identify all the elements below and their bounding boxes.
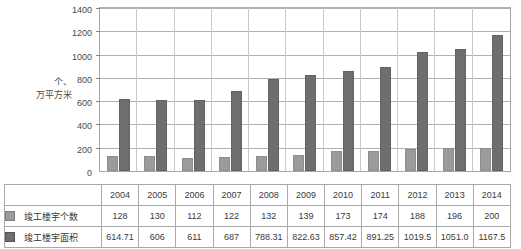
bar-completed-area — [343, 71, 354, 171]
legend-label: 竣工楼宇面积 — [24, 231, 78, 244]
y-axis-tick-label: 600 — [52, 99, 92, 108]
table-header-row: 2004200520062007200820092010201120122013… — [5, 185, 511, 206]
table-year-header: 2007 — [213, 185, 250, 206]
bar-completed-area — [417, 52, 428, 171]
bar-completed-area — [156, 100, 167, 171]
table-value-cell: 196 — [436, 206, 473, 227]
table-value-cell: 139 — [287, 206, 324, 227]
bar-completed-count — [182, 158, 193, 171]
data-table: 2004200520062007200820092010201120122013… — [4, 184, 511, 248]
y-axis-tick-label: 800 — [52, 75, 92, 84]
bar-completed-area — [231, 91, 242, 171]
table-value-cell: 614.71 — [102, 227, 139, 248]
bar-completed-area — [268, 79, 279, 171]
table-series-label-cell: 竣工楼宇个数 — [5, 206, 102, 227]
bar-group — [435, 8, 472, 171]
table-value-cell: 1051.0 — [436, 227, 473, 248]
bar-group — [473, 8, 510, 171]
legend-entry: 竣工楼宇个数 — [5, 210, 101, 223]
table-value-cell: 606 — [139, 227, 176, 248]
table-year-header: 2010 — [325, 185, 362, 206]
table-year-header: 2004 — [102, 185, 139, 206]
table-year-header: 2013 — [436, 185, 473, 206]
bar-completed-count — [405, 149, 416, 171]
table-series-label-cell: 竣工楼宇面积 — [5, 227, 102, 248]
bar-group — [324, 8, 361, 171]
bar-completed-count — [256, 156, 267, 171]
legend-entry: 竣工楼宇面积 — [5, 231, 101, 244]
table-value-cell: 112 — [176, 206, 213, 227]
bar-group — [137, 8, 174, 171]
bar-chart-with-data-table: 个、 万平方米 1400120010008006004002000 200420… — [0, 0, 521, 249]
bar-completed-count — [443, 148, 454, 171]
bar-completed-area — [119, 99, 130, 171]
table-year-header: 2012 — [399, 185, 436, 206]
data-table-container: 2004200520062007200820092010201120122013… — [4, 184, 512, 248]
chart-plot-region: 个、 万平方米 1400120010008006004002000 — [0, 0, 521, 184]
table-corner-cell — [5, 185, 102, 206]
y-axis-tick-label: 200 — [52, 145, 92, 154]
bar-group — [361, 8, 398, 171]
table-value-cell: 128 — [102, 206, 139, 227]
table-year-header: 2014 — [473, 185, 510, 206]
bar-completed-count — [144, 156, 155, 171]
bar-completed-count — [331, 151, 342, 171]
y-axis-tick-labels: 1400120010008006004002000 — [52, 2, 92, 172]
table-year-header: 2008 — [250, 185, 287, 206]
bar-completed-count — [368, 151, 379, 171]
bar-group — [175, 8, 212, 171]
table-value-cell: 891.25 — [362, 227, 399, 248]
table-value-cell: 130 — [139, 206, 176, 227]
table-year-header: 2006 — [176, 185, 213, 206]
bar-groups — [100, 8, 510, 171]
table-year-header: 2005 — [139, 185, 176, 206]
table-value-cell: 200 — [473, 206, 510, 227]
table-value-cell: 122 — [213, 206, 250, 227]
bar-completed-count — [480, 148, 491, 171]
bar-group — [249, 8, 286, 171]
table-value-cell: 857.42 — [325, 227, 362, 248]
bar-completed-area — [305, 75, 316, 171]
bar-group — [100, 8, 137, 171]
bar-group — [212, 8, 249, 171]
table-value-cell: 611 — [176, 227, 213, 248]
legend-swatch-icon — [5, 232, 15, 242]
table-row: 竣工楼宇面积614.71606611687788.31822.63857.428… — [5, 227, 511, 248]
table-value-cell: 687 — [213, 227, 250, 248]
table-value-cell: 132 — [250, 206, 287, 227]
bar-completed-count — [107, 156, 118, 171]
y-axis-tick-label: 1000 — [52, 52, 92, 61]
bar-completed-area — [380, 67, 391, 171]
bar-completed-area — [492, 35, 503, 171]
table-row: 竣工楼宇个数128130112122132139173174188196200 — [5, 206, 511, 227]
table-value-cell: 173 — [325, 206, 362, 227]
bar-completed-count — [219, 157, 230, 171]
table-year-header: 2009 — [287, 185, 324, 206]
table-value-cell: 822.63 — [287, 227, 324, 248]
table-value-cell: 1019.5 — [399, 227, 436, 248]
y-axis-tick-label: 1200 — [52, 29, 92, 38]
table-value-cell: 174 — [362, 206, 399, 227]
table-value-cell: 1167.5 — [473, 227, 510, 248]
table-value-cell: 788.31 — [250, 227, 287, 248]
bar-completed-area — [455, 49, 466, 171]
legend-label: 竣工楼宇个数 — [24, 210, 78, 223]
y-axis-tick-label: 1400 — [52, 6, 92, 15]
bar-completed-count — [293, 155, 304, 171]
plot-area — [99, 7, 511, 172]
y-axis-tick-label: 0 — [52, 169, 92, 178]
bar-group — [286, 8, 323, 171]
table-value-cell: 188 — [399, 206, 436, 227]
bar-group — [398, 8, 435, 171]
bar-completed-area — [194, 100, 205, 171]
legend-swatch-icon — [5, 211, 15, 221]
y-axis-tick-label: 400 — [52, 122, 92, 131]
table-year-header: 2011 — [362, 185, 399, 206]
